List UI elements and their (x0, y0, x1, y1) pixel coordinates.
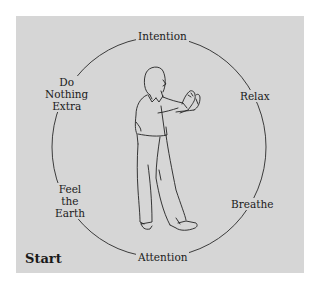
label-line: the (55, 195, 85, 207)
label-relax: Relax (238, 90, 272, 102)
label-feel-the-earth: Feel the Earth (53, 183, 87, 219)
label-line: Do (45, 76, 88, 88)
label-do-nothing-extra: Do Nothing Extra (43, 76, 90, 112)
label-breathe: Breathe (229, 198, 275, 210)
standing-person-icon (135, 67, 200, 230)
label-line: Extra (45, 100, 88, 112)
start-label: Start (25, 251, 62, 266)
cycle-diagram (0, 0, 315, 291)
label-attention: Attention (136, 251, 189, 263)
label-line: Nothing (45, 88, 88, 100)
label-intention: Intention (136, 30, 189, 42)
label-line: Feel (55, 183, 85, 195)
label-line: Earth (55, 207, 85, 219)
